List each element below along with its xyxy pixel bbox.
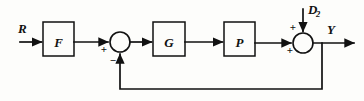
signal-label-r: R [17,21,27,36]
block-p-label: P [236,35,245,50]
block-diagram-canvas: R F + − G P D 2 + + Y [0,0,364,101]
block-diagram-svg: R F + − G P D 2 + + Y [0,0,364,101]
sum1-left-sign: + [101,43,107,55]
signal-label-y: Y [327,22,336,37]
sum2-left-sign: + [287,44,293,56]
block-g-label: G [164,35,174,50]
summing-junction-2 [293,33,313,53]
sum2-top-sign: + [290,21,296,33]
block-f-label: F [53,35,63,50]
summing-junction-1 [110,32,130,52]
signal-label-d2-subscript: 2 [315,9,321,19]
sum1-bottom-sign: − [110,54,116,66]
